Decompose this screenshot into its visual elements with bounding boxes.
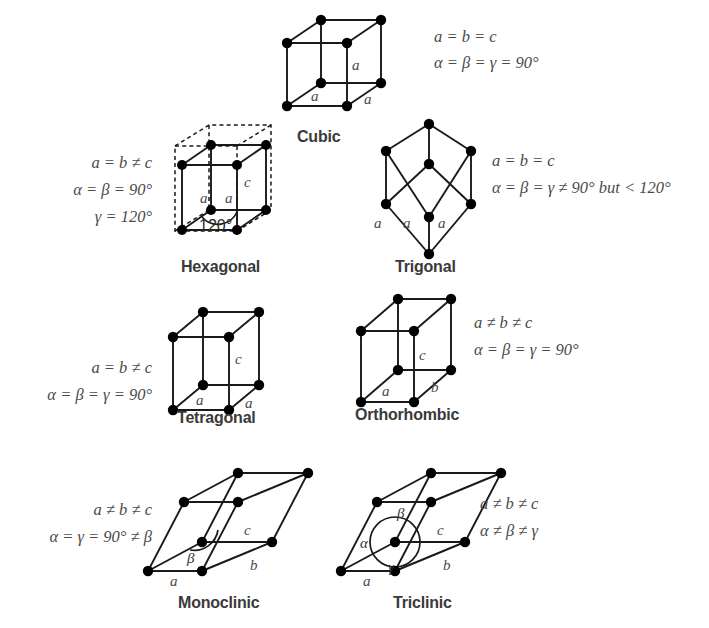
trigonal-edge-label-a2: a: [403, 215, 411, 231]
monoclinic-vertex: [197, 537, 207, 547]
cubic-vertex: [282, 101, 292, 111]
hexagonal-equation-lengths: a = b ≠ c: [0, 150, 152, 175]
hexagonal-equation-angles-ab: α = β = 90°: [0, 177, 152, 202]
cubic-vertex: [342, 101, 352, 111]
triclinic-vertex: [426, 497, 436, 507]
orthorhombic-connector-2: [414, 299, 451, 331]
tetragonal-edge-label-c: c: [235, 351, 242, 367]
trigonal-vertex: [466, 199, 476, 209]
trigonal-edge-bot-3: [429, 204, 471, 254]
cubic-vertex: [316, 15, 326, 25]
hexagonal-vertex: [177, 225, 187, 235]
orthorhombic-vertex: [393, 365, 403, 375]
monoclinic-vertex: [303, 468, 313, 478]
cubic-edge-label-a1: a: [311, 88, 319, 104]
tetragonal-vertex: [254, 307, 264, 317]
system-label-trigonal: Trigonal: [395, 258, 456, 276]
monoclinic-vertex: [143, 566, 153, 576]
trigonal-edge-top-3: [429, 124, 471, 151]
hexagonal-angle-label-120: 120°: [199, 217, 232, 234]
triclinic-vertex: [460, 537, 470, 547]
triclinic-back-face: [341, 502, 431, 571]
orthorhombic-edge-label-c: c: [419, 347, 426, 363]
cubic-edge-label-a2: a: [364, 91, 372, 107]
system-label-monoclinic: Monoclinic: [178, 594, 260, 612]
triclinic-vertex: [426, 468, 436, 478]
hexagonal-front-face: [211, 145, 266, 210]
tetragonal-front-face: [203, 312, 259, 385]
tetragonal-vertex: [254, 380, 264, 390]
hexagonal-vertex: [232, 225, 242, 235]
orthorhombic-edge-label-a: a: [382, 383, 390, 399]
orthorhombic-equation-lengths: a ≠ b ≠ c: [474, 310, 532, 335]
system-label-cubic: Cubic: [297, 128, 340, 146]
system-label-orthorhombic: Orthorhombic: [355, 406, 459, 424]
trigonal-vertex: [466, 146, 476, 156]
triclinic-edge-label-c: c: [437, 522, 444, 538]
crystal-system-orthorhombic: c a b: [355, 292, 477, 418]
monoclinic-equation-lengths: a ≠ b ≠ c: [0, 497, 152, 522]
tetragonal-edge-label-a1: a: [196, 392, 204, 408]
orthorhombic-diagram: c a b: [355, 292, 477, 418]
cubic-vertex: [376, 78, 386, 88]
orthorhombic-vertex: [393, 294, 403, 304]
trigonal-edge-label-a3: a: [438, 215, 446, 231]
tetragonal-equation-lengths: a = b ≠ c: [0, 355, 152, 380]
cubic-vertex: [316, 78, 326, 88]
crystal-system-monoclinic: c a b β: [140, 458, 320, 588]
cubic-connector-1: [287, 20, 321, 43]
triclinic-equation-lengths: a ≠ b ≠ c: [480, 491, 538, 516]
monoclinic-vertex: [233, 497, 243, 507]
cubic-edge-label-c: a: [352, 57, 360, 73]
hexagonal-edge-label-c: c: [244, 174, 251, 190]
cubic-connector-2: [347, 20, 381, 43]
triclinic-edge-label-a: a: [363, 573, 371, 589]
trigonal-edge-mid-3: [386, 164, 429, 204]
hexagonal-prism-outline: [175, 125, 271, 231]
trigonal-edge-mid-5: [429, 151, 471, 217]
tetragonal-connector-1: [173, 312, 203, 337]
monoclinic-connector-3: [238, 473, 308, 502]
monoclinic-vertex: [197, 566, 207, 576]
hexagonal-vertex: [177, 160, 187, 170]
hexagonal-equation-angle-gamma: γ = 120°: [0, 204, 152, 229]
cubic-vertex: [342, 38, 352, 48]
monoclinic-connector-2: [202, 542, 272, 571]
monoclinic-vertex: [267, 537, 277, 547]
triclinic-edge-label-b: b: [443, 557, 451, 573]
monoclinic-edge-label-c: c: [244, 522, 251, 538]
triclinic-angle-label-beta: β: [396, 505, 405, 521]
trigonal-vertex: [424, 159, 434, 169]
trigonal-equation-lengths: a = b = c: [492, 148, 555, 173]
tetragonal-equation-angles: α = β = γ = 90°: [0, 382, 152, 407]
orthorhombic-vertex: [356, 326, 366, 336]
hexagonal-connector-3: [237, 210, 266, 230]
cubic-diagram: a a a: [281, 12, 401, 130]
hexagonal-connector-1: [182, 145, 211, 165]
trigonal-vertex: [424, 119, 434, 129]
cubic-front-face: [321, 20, 381, 83]
hexagonal-vertex: [206, 205, 216, 215]
hexagonal-edge-label-a1: a: [200, 190, 208, 206]
orthorhombic-connector-4: [361, 370, 398, 402]
crystal-system-trigonal: a a a: [374, 118, 484, 260]
system-label-hexagonal: Hexagonal: [181, 258, 260, 276]
system-label-tetragonal: Tetragonal: [177, 409, 256, 427]
monoclinic-vertex: [233, 468, 243, 478]
monoclinic-angle-label-beta: β: [186, 550, 195, 566]
orthorhombic-vertex: [409, 326, 419, 336]
crystal-system-cubic: a a a: [281, 12, 401, 130]
trigonal-vertex: [381, 199, 391, 209]
triclinic-vertex: [496, 468, 506, 478]
orthorhombic-equation-angles: α = β = γ = 90°: [474, 337, 579, 362]
cubic-equation-angles: α = β = γ = 90°: [434, 50, 539, 75]
triclinic-vertex: [336, 566, 346, 576]
trigonal-vertex: [381, 146, 391, 156]
trigonal-edge-label-a1: a: [374, 215, 382, 231]
triclinic-vertex: [372, 497, 382, 507]
orthorhombic-vertex: [446, 294, 456, 304]
tetragonal-connector-3: [229, 385, 259, 410]
hexagonal-vertex: [206, 140, 216, 150]
crystal-system-hexagonal: c a a 120°: [172, 124, 290, 258]
hexagonal-vertex: [232, 160, 242, 170]
